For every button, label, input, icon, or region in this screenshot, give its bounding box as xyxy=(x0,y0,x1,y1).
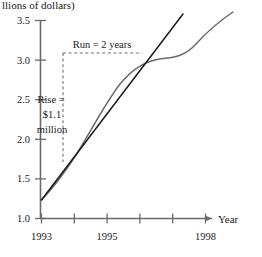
y-tick-label-2-5: 2.5 xyxy=(17,94,30,105)
series-revenue-curve xyxy=(42,12,234,200)
rise-annotation-label-line2: $1.1 xyxy=(43,109,61,120)
x-tick-label-1998: 1998 xyxy=(195,231,216,242)
x-axis-label: Year xyxy=(218,213,239,225)
rise-annotation-label-line3: million xyxy=(37,124,68,135)
x-tick-label-1993: 1993 xyxy=(31,231,52,242)
chart-title: llions of dollars) xyxy=(2,0,75,12)
y-tick-label-1-5: 1.5 xyxy=(17,173,30,184)
y-tick-label-1-0: 1.0 xyxy=(17,213,30,224)
y-tick-label-2-0: 2.0 xyxy=(17,134,30,145)
y-tick-label-3-0: 3.0 xyxy=(17,55,30,66)
chart-svg: llions of dollars) 3.5 3.0 2.5 2.0 1.5 1… xyxy=(0,0,262,257)
run-annotation-label: Run = 2 years xyxy=(73,39,132,50)
chart-figure: llions of dollars) 3.5 3.0 2.5 2.0 1.5 1… xyxy=(0,0,262,257)
y-tick-label-3-5: 3.5 xyxy=(17,15,30,26)
rise-annotation-label-line1: Rise = xyxy=(37,94,64,105)
x-tick-label-1995: 1995 xyxy=(97,231,118,242)
